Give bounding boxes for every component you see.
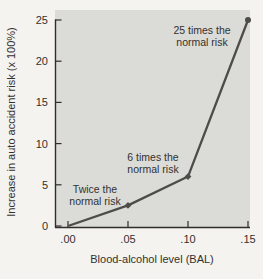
y-tick-label: 5 [42,179,48,191]
annotation-label: Twice thenormal risk [69,183,121,207]
y-axis-label: Increase in auto accident risk (x 100%) [5,27,17,217]
x-tick-label: .05 [120,233,135,245]
x-tick-label: .10 [180,233,195,245]
y-tick-label: 20 [36,55,48,67]
line-chart: 0510152025 .00.05.10.15 Twice thenormal … [0,0,263,279]
x-tick-label: .00 [60,233,75,245]
y-tick-label: 0 [42,220,48,232]
x-tick-label: .15 [240,233,255,245]
y-tick-label: 25 [36,14,48,26]
annotation-label: 6 times thenormal risk [127,151,179,175]
y-tick-label: 15 [36,96,48,108]
x-axis-label: Blood-alcohol level (BAL) [90,253,214,265]
data-point [245,17,251,23]
annotation-label: 25 times thenormal risk [173,24,230,48]
y-tick-label: 10 [36,138,48,150]
chart-figure: 0510152025 .00.05.10.15 Twice thenormal … [0,0,263,279]
